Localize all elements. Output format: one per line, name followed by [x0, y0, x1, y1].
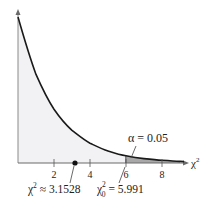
tick-label-4: 4: [88, 169, 93, 180]
alpha-label: α = 0.05: [128, 131, 168, 145]
test-statistic-label: χ2 ≈ 3.1528: [27, 181, 81, 196]
x-axis-label: χ2: [190, 156, 200, 169]
test-statistic-leader: [70, 166, 74, 183]
chi-square-chart: 2 4 6 8 χ2 α = 0.05 χ2 ≈ 3.1528 χ20 = 5.…: [0, 0, 208, 208]
test-statistic-point: [72, 160, 77, 165]
alpha-leader: [131, 146, 136, 158]
tick-label-8: 8: [160, 169, 165, 180]
acceptance-region: [18, 17, 126, 163]
y-axis-arrow-icon: [16, 9, 21, 15]
critical-value-label: χ20 = 5.991: [96, 180, 144, 199]
tick-label-6: 6: [124, 169, 129, 180]
tick-label-2: 2: [52, 169, 57, 180]
